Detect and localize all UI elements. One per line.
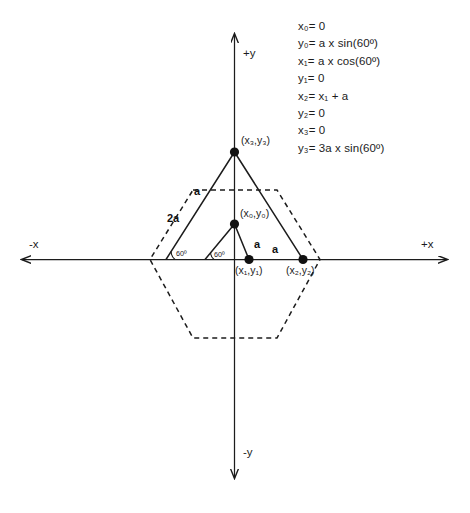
equation-y3: y₃= 3a x sin(60º) [298,140,468,157]
equation-x3: x₃= 0 [298,122,468,139]
diagram-canvas: x₀= 0 y₀= a x sin(60º) x₁= a x cos(60º) … [0,0,470,513]
vertex-dot-p1 [244,255,253,264]
point-label-p0: (x₀,y₀) [240,207,269,219]
point-label-p1: (x₁,y₁) [235,264,263,276]
equation-x1: x₁= a x cos(60º) [298,53,468,70]
angle-label-inner-left: 60º [214,250,225,259]
vertex-dot-p0 [230,219,239,228]
vertex-dot-p3 [230,147,239,156]
angle-arc-outer-left [171,252,175,260]
inner-triangle [205,224,249,260]
segment-label-inner-right-a: a [254,238,260,250]
equation-x2: x₂= x₁ + a [298,88,468,105]
point-label-p3: (x₃,y₃) [241,134,270,146]
angle-label-outer-left: 60º [176,249,187,258]
equation-y0: y₀= a x sin(60º) [298,35,468,52]
axis-label-y-positive: +y [243,47,255,59]
axis-label-x-negative: -x [29,238,39,250]
segment-label-base-a: a [272,243,278,255]
equation-y2: y₂= 0 [298,105,468,122]
segment-label-outer-left-2a: 2a [167,212,179,224]
point-label-p2: (x₂,y₂) [286,264,315,276]
axis-label-y-negative: -y [243,446,253,458]
equation-x0: x₀= 0 [298,18,468,35]
segment-label-upper-left-a: a [194,185,200,197]
equation-list: x₀= 0 y₀= a x sin(60º) x₁= a x cos(60º) … [298,18,468,157]
axis-label-x-positive: +x [421,238,433,250]
vertex-dot-p2 [298,255,307,264]
equation-y1: y₁= 0 [298,70,468,87]
